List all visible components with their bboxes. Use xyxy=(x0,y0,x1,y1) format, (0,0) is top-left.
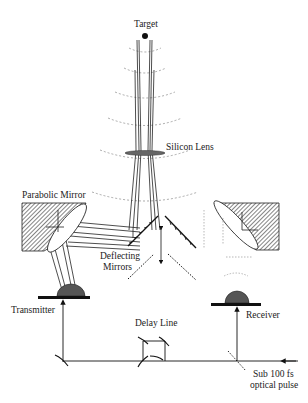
optical-path: Delay Line xyxy=(55,318,298,371)
silicon-lens-label: Silicon Lens xyxy=(166,142,214,152)
receiver: Receiver xyxy=(211,291,281,361)
optical-pulse: Sub 100 fs optical pulse xyxy=(250,369,298,390)
receiver-label: Receiver xyxy=(246,310,281,320)
delay-line-label: Delay Line xyxy=(135,318,177,328)
deflecting-label-2: Mirrors xyxy=(103,262,132,272)
parabolic-mirror-right xyxy=(204,197,279,276)
transmitter: Transmitter xyxy=(11,284,90,362)
transmitter-label: Transmitter xyxy=(11,305,56,315)
pulse-label-2: optical pulse xyxy=(250,380,298,390)
target-label: Target xyxy=(134,19,158,29)
silicon-lens: Silicon Lens xyxy=(125,142,214,156)
wavefronts xyxy=(92,48,198,201)
deflecting-label-1: Deflecting xyxy=(100,251,140,261)
thz-setup-diagram: Target Silicon Lens Pa xyxy=(0,0,308,403)
target-dot xyxy=(142,33,148,39)
target: Target xyxy=(134,19,158,39)
pulse-label-1: Sub 100 fs xyxy=(253,369,294,379)
parabolic-mirror-label: Parabolic Mirror xyxy=(22,190,86,200)
